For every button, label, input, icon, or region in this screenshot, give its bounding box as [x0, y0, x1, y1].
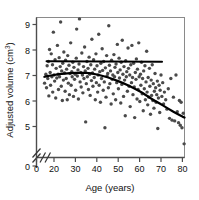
data-point: [66, 98, 69, 101]
data-point: [104, 66, 107, 69]
data-point: [135, 97, 138, 100]
data-point: [45, 86, 48, 89]
data-point: [65, 77, 68, 80]
data-point: [95, 64, 98, 67]
x-tick-label-0: 0: [34, 164, 39, 174]
data-point: [143, 64, 146, 67]
data-point: [68, 93, 71, 96]
data-point: [155, 93, 158, 96]
data-point: [124, 114, 127, 117]
scatter-plot-svg: 9 8 7 6 5 0 0 20 30 40 50 60 70 80 Age (…: [0, 0, 199, 200]
data-point: [114, 62, 117, 65]
data-point: [59, 20, 62, 23]
data-point: [58, 75, 61, 78]
data-point: [149, 113, 152, 116]
data-point: [82, 77, 85, 80]
data-point: [152, 106, 155, 109]
data-point: [119, 101, 122, 104]
data-point: [60, 69, 63, 72]
data-point: [65, 67, 68, 70]
data-point: [83, 45, 86, 48]
data-point: [163, 90, 166, 93]
data-point: [97, 32, 100, 35]
data-point: [74, 89, 77, 92]
x-tick-label-50: 50: [113, 164, 123, 174]
data-point: [54, 96, 57, 99]
data-point: [70, 75, 73, 78]
data-point: [77, 97, 80, 100]
data-point: [145, 50, 148, 53]
data-point: [148, 67, 151, 70]
data-point: [100, 47, 103, 50]
data-point: [151, 63, 154, 66]
data-point: [174, 73, 177, 76]
data-point: [72, 95, 75, 98]
data-point: [63, 90, 66, 93]
svg-text:Adjusted volume (cm3): Adjusted volume (cm3): [4, 42, 15, 137]
data-point: [99, 101, 102, 104]
x-axis-title: Age (years): [85, 182, 134, 193]
data-point: [53, 79, 56, 82]
data-point: [125, 75, 128, 78]
data-point: [148, 85, 151, 88]
x-tick-label-30: 30: [70, 164, 80, 174]
data-point: [47, 94, 50, 97]
data-point: [105, 54, 108, 57]
data-point: [90, 79, 93, 82]
data-point: [117, 87, 120, 90]
data-point: [157, 83, 160, 86]
data-point: [66, 54, 69, 57]
data-point: [122, 95, 125, 98]
data-point: [49, 83, 52, 86]
data-point: [152, 82, 155, 85]
data-point: [78, 17, 81, 20]
data-point: [102, 89, 105, 92]
data-point: [144, 80, 147, 83]
y-tick-label-9: 9: [25, 20, 30, 30]
data-point: [160, 95, 163, 98]
data-point: [169, 77, 172, 80]
flat-regression-line-layer: [47, 61, 163, 62]
data-point: [73, 78, 76, 81]
data-point: [67, 64, 70, 67]
data-point: [56, 44, 59, 47]
data-point: [57, 56, 60, 59]
y-tick-label-5: 5: [25, 122, 30, 132]
trend-line: [47, 61, 163, 62]
data-point: [75, 56, 78, 59]
data-point: [96, 90, 99, 93]
data-point: [157, 96, 160, 99]
data-point: [69, 83, 72, 86]
data-point: [108, 64, 111, 67]
data-point: [142, 69, 145, 72]
data-point: [130, 81, 133, 84]
data-point: [142, 109, 145, 112]
plot-frame: [37, 18, 185, 158]
data-point: [78, 80, 81, 83]
data-point: [118, 68, 121, 71]
data-point: [133, 116, 136, 119]
data-point: [146, 103, 149, 106]
x-tick-label-60: 60: [135, 164, 145, 174]
data-point: [90, 38, 93, 41]
data-point: [87, 55, 90, 58]
data-point: [134, 71, 137, 74]
data-point: [137, 41, 140, 44]
y-tick-labels: 9 8 7 6 5 0: [25, 20, 30, 172]
data-point: [52, 30, 55, 33]
data-point: [143, 87, 146, 90]
data-point: [139, 83, 142, 86]
data-point: [128, 73, 131, 76]
data-point: [67, 81, 70, 84]
data-point: [150, 94, 153, 97]
x-tick-labels: 0 20 30 40 50 60 70 80: [34, 164, 187, 174]
data-point: [136, 67, 139, 70]
data-point: [113, 75, 116, 78]
data-point: [51, 90, 54, 93]
x-tick-label-80: 80: [177, 164, 187, 174]
data-point: [180, 126, 183, 129]
data-point: [86, 75, 89, 78]
data-point: [117, 56, 120, 59]
data-point: [118, 76, 121, 79]
data-point: [121, 73, 124, 76]
